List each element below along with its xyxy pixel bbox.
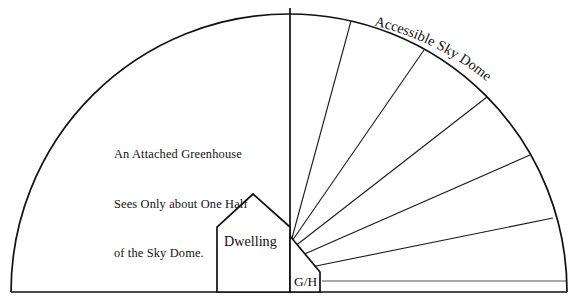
accessible-sky-dome-label-text: Accessible Sky Dome [373,13,495,84]
greenhouse-label: G/H [294,273,317,291]
dwelling-label: Dwelling [224,232,277,251]
annotation-line-2: Sees Only about One Half [114,196,248,213]
ray-2 [292,50,424,241]
ray-1 [292,21,351,238]
sky-ray-group [292,21,566,281]
ray-4 [300,155,530,256]
ray-3 [294,97,487,247]
ray-5 [311,218,553,267]
sky-dome-diagram: Accessible Sky Dome An Attached Greenhou… [0,0,577,308]
accessible-sky-dome-label: Accessible Sky Dome [373,13,495,84]
annotation-note: An Attached Greenhouse Sees Only about O… [114,113,248,295]
annotation-line-1: An Attached Greenhouse [114,146,248,163]
diagram-canvas: Accessible Sky Dome [0,0,577,308]
